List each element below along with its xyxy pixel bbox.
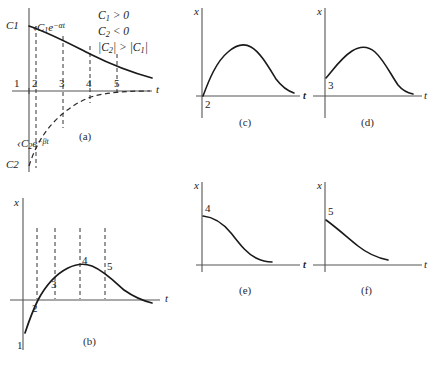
panel-f-caption: (f) [361,285,372,296]
panel-b-tick-label-4: 4 [82,255,88,266]
panel-a-tick-label-2: 2 [32,78,38,89]
panel-d-caption: (d) [361,117,374,128]
panel-a-conditions: C1 > 0 C2 < 0 |C2| > |C1| [98,8,148,56]
panel-f [313,182,422,272]
panel-a-tick-label-1: 1 [14,78,20,89]
condition-abs: |C2| > |C1| [98,40,148,56]
panel-a-tick-label-4: 4 [86,78,92,89]
panel-c-caption: (c) [239,117,251,128]
panel-f-y-axis-label: x [317,180,322,191]
panel-a-curve-label-c2: ‹C2e−βt [17,137,49,151]
panel-b-curve [25,264,152,333]
panel-c [196,8,300,118]
panel-b-tick-label-1: 1 [17,340,23,351]
panel-d-y-axis-label: x [317,6,322,17]
panel-f-left-axis-label: t [303,259,306,270]
panel-b [10,198,160,350]
panel-c-start-label: 2 [205,99,211,110]
panel-a-x-axis-label: t [156,84,159,95]
panel-b-caption: (b) [83,336,96,347]
panel-d-x-axis-label: t [424,90,427,101]
panel-b-x-axis-label: t [165,293,168,304]
panel-b-tick-label-5: 5 [107,261,113,272]
condition-c2: C2 < 0 [98,24,148,40]
panel-f-x-axis-label: t [424,259,427,270]
panel-a-c2-axis-label: C2 [6,159,19,170]
figure-svg [0,0,431,371]
panel-c-curve [203,45,294,96]
figure-root: C1 C2 1 2 3 4 5 t ‹C1e−αt ‹C2e−βt C1 > 0… [0,0,431,371]
condition-c1: C1 > 0 [98,8,148,24]
panel-a-tick-label-3: 3 [59,78,65,89]
panel-d-start-label: 3 [328,80,334,91]
panel-e-start-label: 4 [205,203,211,214]
panel-c-y-axis-label: x [194,6,199,17]
panel-e-caption: (e) [239,285,251,296]
panel-b-tick-label-2: 2 [32,303,38,314]
panel-e-curve [203,216,272,262]
panel-d-curve [326,47,413,94]
panel-a-caption: (a) [79,131,91,142]
panel-e [196,182,300,272]
panel-e-y-axis-label: x [194,180,199,191]
panel-b-tick-label-3: 3 [51,279,57,290]
panel-a-curve-label-c1: ‹C1e−αt [33,21,65,35]
panel-d-left-axis-label: t [303,90,306,101]
panel-b-y-axis-label: x [14,197,19,208]
panel-d [313,8,422,118]
panel-a-tick-label-5: 5 [114,78,120,89]
panel-f-start-label: 5 [328,206,334,217]
panel-f-curve [326,220,388,260]
panel-a-c1-axis-label: C1 [6,20,19,31]
